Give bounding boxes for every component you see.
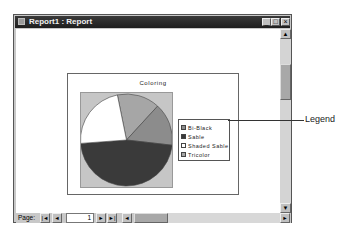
swatch-icon xyxy=(181,143,186,148)
swatch-icon xyxy=(181,125,186,130)
legend-label: Bi-Black xyxy=(188,125,212,131)
callout-line xyxy=(228,120,304,121)
pie-slice-sable xyxy=(81,140,172,186)
scroll-up-button[interactable]: ▲ xyxy=(280,29,291,39)
horizontal-scroll-thumb[interactable] xyxy=(134,213,168,223)
legend-item-tricolor: Tricolor xyxy=(181,150,229,159)
legend-label: Shaded Sable xyxy=(188,143,229,149)
scroll-left-button[interactable]: ◄ xyxy=(122,213,132,223)
swatch-icon xyxy=(181,134,186,139)
close-button[interactable]: × xyxy=(281,18,290,26)
legend-item-shaded-sable: Shaded Sable xyxy=(181,141,229,150)
minimize-button[interactable]: _ xyxy=(262,18,271,26)
scroll-right-button[interactable]: ► xyxy=(280,213,290,223)
vertical-scroll-thumb[interactable] xyxy=(280,64,291,100)
legend-label: Sable xyxy=(188,134,205,140)
pie-chart xyxy=(81,93,172,187)
legend-label: Tricolor xyxy=(188,152,210,158)
page-number-input[interactable]: 1 xyxy=(66,213,94,223)
window-title: Report1 : Report xyxy=(29,16,92,28)
legend-item-bi-black: Bi-Black xyxy=(181,123,229,132)
chart-frame: Coloring Bi-Black Sable Shaded Sable xyxy=(67,73,239,195)
swatch-icon xyxy=(181,152,186,157)
record-navigation-bar: Page: |◄ ◄ 1 ► ►| ◄ ► xyxy=(16,213,291,223)
plot-area xyxy=(80,92,173,188)
chart-title: Coloring xyxy=(68,80,238,86)
maximize-button[interactable]: □ xyxy=(271,18,280,26)
scroll-down-button[interactable]: ▼ xyxy=(280,203,291,213)
horizontal-scrollbar[interactable] xyxy=(134,213,280,223)
vertical-scrollbar[interactable]: ▲ ▼ xyxy=(280,29,291,213)
previous-page-button[interactable]: ◄ xyxy=(52,213,62,223)
last-page-button[interactable]: ►| xyxy=(107,213,117,223)
next-page-button[interactable]: ► xyxy=(96,213,106,223)
title-bar[interactable]: Report1 : Report _ □ × xyxy=(15,16,290,28)
first-page-button[interactable]: |◄ xyxy=(40,213,50,223)
report-window: Report1 : Report _ □ × Coloring Bi-Black… xyxy=(13,14,292,223)
report-icon[interactable] xyxy=(18,18,25,25)
report-canvas: Coloring Bi-Black Sable Shaded Sable xyxy=(16,29,280,213)
chart-legend: Bi-Black Sable Shaded Sable Tricolor xyxy=(178,119,230,161)
page-label: Page: xyxy=(18,213,35,223)
legend-item-sable: Sable xyxy=(181,132,229,141)
legend-callout-label: Legend xyxy=(305,114,335,124)
